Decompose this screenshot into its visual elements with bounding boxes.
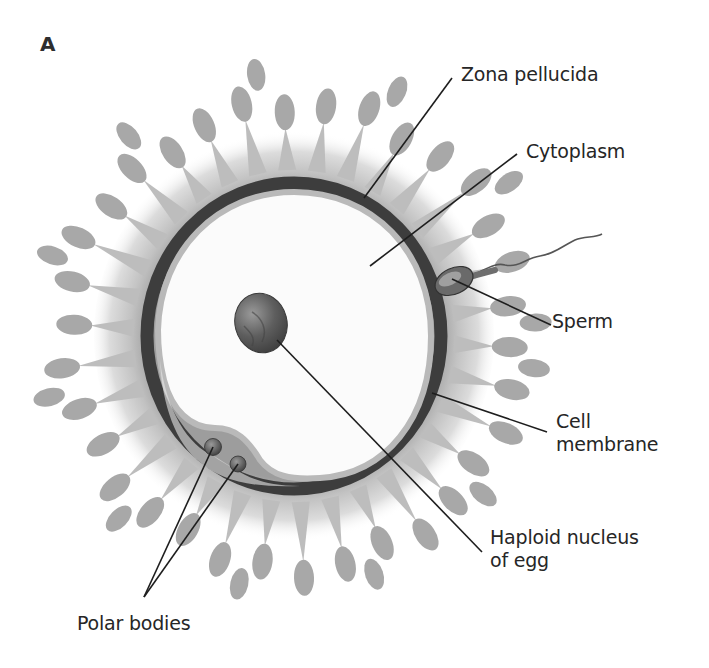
label-haploid-line1: Haploid nucleus [490,526,639,549]
label-cytoplasm: Cytoplasm [526,140,625,163]
label-sperm: Sperm [552,310,613,333]
label-cell-membrane: Cell membrane [556,410,658,456]
label-cell-membrane-line2: membrane [556,433,658,456]
panel-letter: A [40,32,55,56]
label-haploid-nucleus: Haploid nucleus of egg [490,526,639,572]
label-cell-membrane-line1: Cell [556,410,658,433]
egg-diagram: A Zona pellucida Cytoplasm Sperm Cell me… [0,0,709,668]
label-polar-bodies: Polar bodies [77,612,190,635]
label-zona-pellucida: Zona pellucida [461,63,598,86]
label-haploid-line2: of egg [490,549,639,572]
